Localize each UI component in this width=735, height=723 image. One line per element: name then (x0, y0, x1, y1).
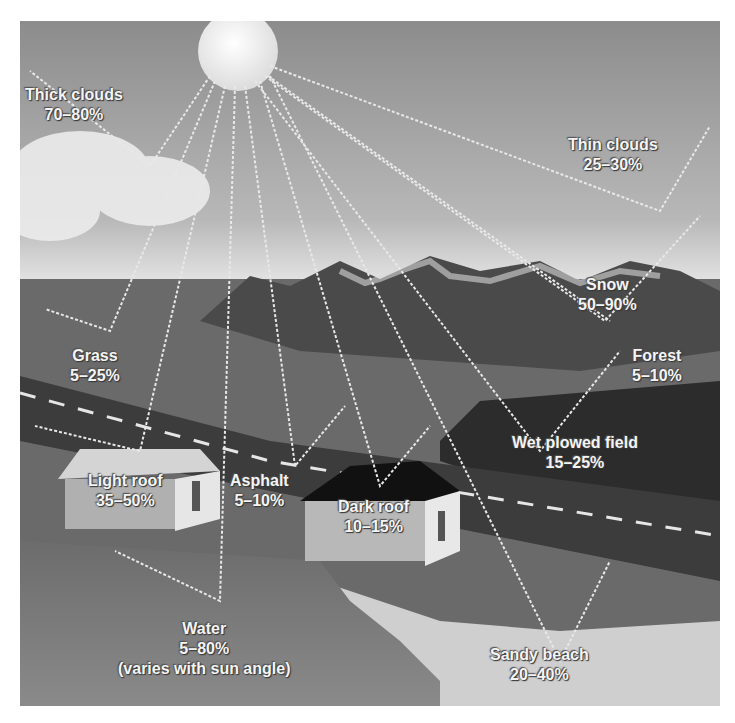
label-dark-roof: Dark roof 10–15% (338, 497, 409, 537)
label-light-roof: Light roof 35–50% (88, 471, 163, 511)
label-snow: Snow 50–90% (578, 275, 637, 315)
albedo-diagram: Thick clouds 70–80% Thin clouds 25–30% S… (20, 21, 720, 706)
label-wet-plowed-field: Wet plowed field 15–25% (512, 433, 638, 473)
label-sandy-beach: Sandy beach 20–40% (490, 645, 589, 685)
label-grass: Grass 5–25% (70, 346, 120, 386)
label-forest: Forest 5–10% (632, 346, 682, 386)
label-thin-clouds: Thin clouds 25–30% (568, 135, 658, 175)
scene-illustration (20, 21, 720, 706)
label-water: Water 5–80% (varies with sun angle) (118, 619, 290, 679)
label-thick-clouds: Thick clouds 70–80% (25, 85, 123, 125)
label-asphalt: Asphalt 5–10% (230, 471, 289, 511)
